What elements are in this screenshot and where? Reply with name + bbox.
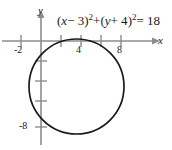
x-axis-label: x bbox=[158, 35, 163, 46]
equation-label: (x− 3)2+(y+ 4)2= 18 bbox=[57, 13, 160, 27]
y-tick-label-minus-8: -8 bbox=[19, 121, 27, 131]
y-axis-label: y bbox=[38, 5, 43, 16]
equation-plus-4: + 4 bbox=[111, 13, 128, 28]
equation-equals-18: = 18 bbox=[136, 13, 160, 28]
x-tick-label-minus-2: -2 bbox=[14, 45, 22, 55]
x-tick-label-4: 4 bbox=[76, 45, 81, 55]
circle-graph-figure: (x− 3)2+(y+ 4)2= 18 x y -2 4 8 -8 bbox=[0, 0, 172, 150]
equation-minus-3: − 3 bbox=[67, 13, 84, 28]
x-tick-label-8: 8 bbox=[117, 45, 122, 55]
